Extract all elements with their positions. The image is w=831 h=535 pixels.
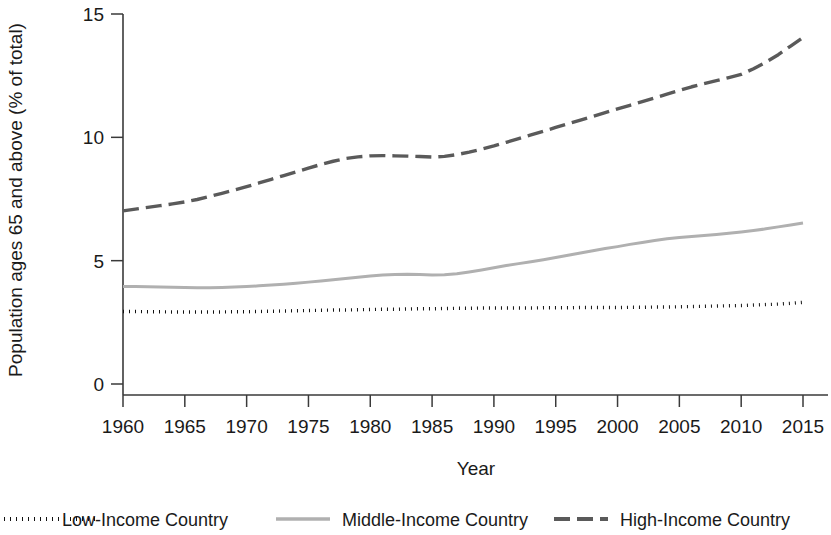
x-tick-label: 1970 [225, 416, 267, 437]
x-tick-label: 1995 [535, 416, 577, 437]
y-axis-title: Population ages 65 and above (% of total… [5, 23, 26, 377]
x-tick-label: 1980 [349, 416, 391, 437]
chart-figure: Population ages 65 and above (% of total… [0, 0, 831, 535]
legend-label[interactable]: Middle-Income Country [342, 510, 528, 530]
x-axis-title: Year [457, 458, 496, 479]
x-tick-label: 2000 [596, 416, 638, 437]
series-line-solid [123, 223, 803, 288]
x-tick-label: 1975 [287, 416, 329, 437]
series-group [123, 37, 803, 312]
y-tick-label: 10 [83, 127, 104, 148]
x-tick-label: 1960 [102, 416, 144, 437]
y-tick-label: 15 [83, 4, 104, 25]
y-tick-label: 5 [93, 251, 104, 272]
x-tick-label: 2005 [658, 416, 700, 437]
x-tick-label: 2015 [782, 416, 824, 437]
x-tick-label: 1985 [411, 416, 453, 437]
chart-legend: Low-Income CountryMiddle-Income CountryH… [0, 510, 790, 530]
x-tick-label: 1965 [164, 416, 206, 437]
y-tick-label: 0 [93, 374, 104, 395]
legend-label[interactable]: Low-Income Country [62, 510, 228, 530]
line-chart: Population ages 65 and above (% of total… [0, 0, 831, 535]
x-tick-label: 2010 [720, 416, 762, 437]
legend-label[interactable]: High-Income Country [620, 510, 790, 530]
y-axis-ticks: 051015 [83, 4, 123, 395]
x-axis-ticks: 1960196519701975198019851990199520002005… [102, 395, 824, 437]
series-line-dashed [123, 37, 803, 210]
series-line-dotted [123, 302, 803, 312]
x-tick-label: 1990 [473, 416, 515, 437]
